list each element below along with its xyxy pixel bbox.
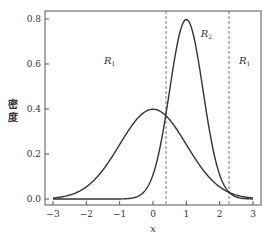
x-tick-label: −1 [113, 209, 126, 219]
x-axis-ticks: −3−2−10123 [46, 201, 256, 219]
y-tick-label: 0.4 [27, 104, 42, 114]
region-label: R1 [238, 55, 250, 67]
x-axis-label: x [150, 223, 156, 234]
density-curves [53, 19, 253, 199]
x-tick-label: −3 [46, 209, 60, 219]
svg-text:度: 度 [8, 111, 19, 123]
y-axis-label: 密 度 [8, 98, 19, 123]
x-tick-label: 1 [183, 209, 189, 219]
x-tick-label: 0 [150, 209, 156, 219]
x-tick-label: 3 [250, 209, 256, 219]
y-tick-label: 0.6 [27, 59, 42, 69]
density-curve [53, 109, 253, 198]
region-label: R2 [200, 28, 213, 40]
y-axis-ticks: 0.00.20.40.60.8 [27, 14, 49, 204]
region-label: R1 [103, 55, 115, 67]
x-tick-label: −2 [80, 209, 93, 219]
y-tick-label: 0.0 [27, 194, 42, 204]
svg-text:密: 密 [8, 98, 18, 110]
y-tick-label: 0.2 [27, 149, 41, 159]
y-tick-label: 0.8 [27, 14, 42, 24]
density-chart: −3−2−10123 0.00.20.40.60.8 R1R2R1 x 密 度 [0, 0, 271, 244]
x-tick-label: 2 [217, 209, 223, 219]
